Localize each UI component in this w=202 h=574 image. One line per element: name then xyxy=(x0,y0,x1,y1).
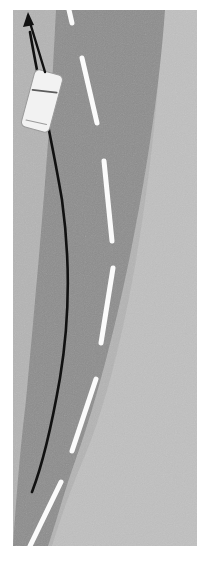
road-scene-figure xyxy=(0,0,202,574)
photo-content xyxy=(13,10,197,546)
overhead-road-illustration xyxy=(0,0,202,574)
lane-dash xyxy=(69,10,72,23)
